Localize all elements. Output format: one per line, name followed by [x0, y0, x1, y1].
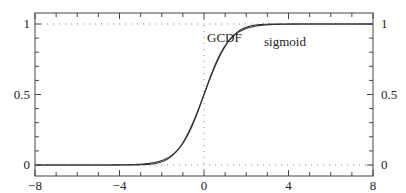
y-tick-label-right: 0.5	[381, 87, 397, 102]
sigmoid-vs-gcdf-plot: −8−4048000.50.511 GCDF sigmoid	[0, 0, 406, 193]
y-tick-label-left: 0.5	[14, 87, 30, 102]
gcdf-label: GCDF	[207, 30, 242, 45]
y-tick-label-right: 1	[381, 16, 388, 31]
x-tick-label: 8	[370, 178, 377, 193]
chart-container: −8−4048000.50.511 GCDF sigmoid	[0, 0, 406, 193]
sigmoid-curve	[35, 24, 373, 165]
x-tick-label: 0	[201, 178, 208, 193]
tick-labels: −8−4048000.50.511	[14, 16, 398, 193]
y-tick-label-left: 1	[24, 16, 31, 31]
y-tick-label-left: 0	[24, 157, 31, 172]
x-tick-label: −8	[28, 178, 42, 193]
x-tick-label: −4	[113, 178, 127, 193]
y-tick-label-right: 0	[381, 157, 388, 172]
curves	[35, 24, 373, 165]
sigmoid-label: sigmoid	[264, 34, 306, 49]
x-tick-label: 4	[285, 178, 292, 193]
